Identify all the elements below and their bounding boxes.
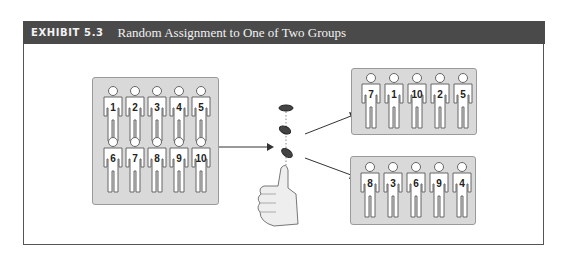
person-figure: 10 xyxy=(188,137,214,193)
person-figure: 5 xyxy=(450,73,476,129)
person-number: 10 xyxy=(188,153,214,164)
coin-flip-thumb-icon xyxy=(248,100,308,235)
exhibit-title: Random Assignment to One of Two Groups xyxy=(118,25,347,41)
person-figure: 5 xyxy=(188,86,214,142)
person-figure: 4 xyxy=(449,162,475,218)
person-number: 4 xyxy=(449,178,475,189)
person-number: 5 xyxy=(450,89,476,100)
person-number: 5 xyxy=(188,102,214,113)
exhibit-header: EXHIBIT 5.3 Random Assignment to One of … xyxy=(23,21,545,44)
exhibit-label: EXHIBIT 5.3 xyxy=(31,27,104,38)
